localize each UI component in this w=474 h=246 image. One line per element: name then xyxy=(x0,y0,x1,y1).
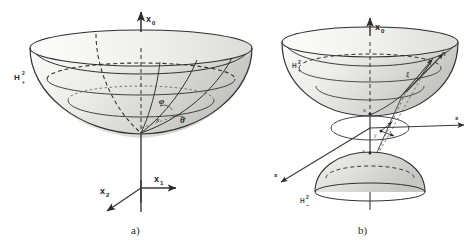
panel-b-lower-set-subscript: − xyxy=(306,202,309,208)
panel-a-set-label-subscript: + xyxy=(22,79,25,85)
panel-a-axis-x0-label: x xyxy=(146,14,151,24)
hyperboloid-figure: φ θ x x 0 x 1 x 2 H 2 + a) xyxy=(0,0,474,246)
panel-a-caption: a) xyxy=(131,224,140,237)
panel-a-axis-x2-label: x xyxy=(100,186,105,196)
panel-b-axis-x0-label: x xyxy=(375,22,380,32)
panel-a-set-label: H xyxy=(14,73,20,82)
panel-b-vector-eta-label: η xyxy=(442,49,446,57)
panel-b-upper-vertex-dot xyxy=(368,112,371,115)
panel-b-caption: b) xyxy=(358,224,368,237)
panel-b-upper-vertex-label: a xyxy=(363,107,366,113)
panel-b-lower-set-superscript: 2 xyxy=(306,194,309,200)
panel-b-upper-set-superscript: 2 xyxy=(298,59,301,65)
panel-b-upper-set-subscript: + xyxy=(298,67,301,73)
panel-a-point-label: x xyxy=(155,116,160,124)
panel-a-axis-x1-label: x xyxy=(154,174,159,184)
panel-b-lower-set-label: H xyxy=(300,197,305,204)
panel-a-angle-theta-label: θ xyxy=(180,115,185,125)
panel-b-disk-point-dot xyxy=(380,130,383,133)
panel-b-upper-set-label: H xyxy=(292,62,297,69)
panel-a-angle-phi-label: φ xyxy=(159,96,164,106)
panel-a-set-label-superscript: 2 xyxy=(22,70,25,76)
figure-canvas: φ θ x x 0 x 1 x 2 H 2 + a) xyxy=(0,0,474,246)
panel-b-lower-vertex-label: a xyxy=(362,148,365,154)
